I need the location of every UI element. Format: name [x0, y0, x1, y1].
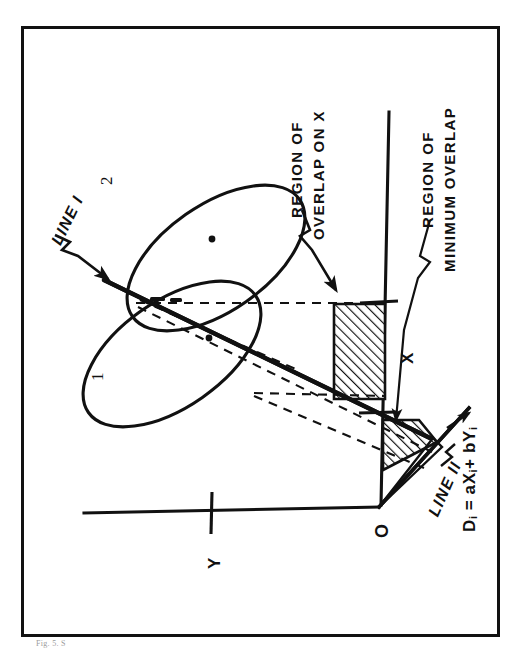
leader-minimum-overlap — [396, 220, 430, 420]
figure-caption: Fig. 5. S — [36, 639, 66, 648]
formula-text: Di = aXi+ bYi — [460, 427, 479, 532]
centroid-marker-1 — [206, 335, 213, 342]
annotation-region-overlap-x-line1: REGION OF — [288, 121, 305, 218]
label-ellipse-1: 1 — [88, 373, 108, 382]
label-origin: O — [372, 524, 393, 538]
ellipse-group-1 — [58, 252, 286, 456]
label-y-axis: Y — [205, 558, 225, 569]
annotation-region-overlap-x-line2: OVERLAP ON X — [310, 110, 327, 240]
label-ellipse-2: 2 — [97, 177, 117, 186]
annotation-region-min-overlap-line1: REGION OF — [419, 131, 436, 228]
label-x-axis: X — [398, 353, 418, 364]
annotation-region-min-overlap-line2: MINIMUM OVERLAP — [441, 107, 458, 272]
dashed-projection-disc-upper — [138, 307, 432, 452]
region-overlap-on-x — [334, 304, 385, 399]
y-axis — [84, 492, 379, 534]
y-axis-tick — [211, 492, 212, 534]
centroid-marker-2 — [209, 236, 216, 243]
label-discriminant-formula: Di = aXi+ bYi — [460, 427, 480, 532]
